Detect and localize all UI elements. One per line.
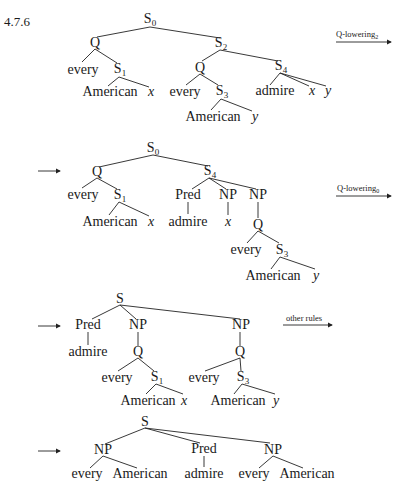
variable-x: x: [225, 215, 231, 229]
node-Pred: Pred: [175, 188, 201, 202]
word-every: every: [169, 85, 200, 99]
variable-x: x: [148, 85, 154, 99]
variable-x: x: [148, 215, 154, 229]
word-every: every: [230, 243, 261, 257]
node-Q: Q: [133, 345, 143, 359]
syntax-derivation-diagram: 4.7.6: [0, 0, 410, 494]
word-american: American: [82, 215, 137, 229]
variable-y: y: [273, 394, 279, 408]
variable-x: x: [181, 394, 187, 408]
node-S: S: [141, 415, 149, 429]
word-every: every: [67, 63, 98, 77]
word-every: every: [188, 371, 219, 385]
word-american: American: [112, 467, 167, 481]
node-S1: S1: [114, 62, 126, 78]
node-S2: S2: [215, 36, 227, 52]
word-american: American: [210, 394, 265, 408]
word-american: American: [245, 269, 300, 283]
node-S1: S1: [114, 188, 126, 204]
word-admire: admire: [256, 84, 295, 98]
node-S0: S0: [147, 141, 159, 157]
node-NP: NP: [232, 318, 250, 332]
node-Pred: Pred: [191, 442, 217, 456]
node-S3: S3: [276, 243, 288, 259]
node-S0: S0: [144, 12, 156, 28]
node-Q: Q: [92, 165, 102, 179]
node-NP: NP: [264, 443, 282, 457]
node-S3: S3: [237, 370, 249, 386]
word-every: every: [238, 467, 269, 481]
word-american: American: [185, 110, 240, 124]
word-every: every: [101, 371, 132, 385]
node-Q: Q: [235, 345, 245, 359]
variable-x: x: [309, 84, 315, 98]
node-NP: NP: [129, 318, 147, 332]
rule-label-q-lowering-2: Q-lowering2: [336, 30, 378, 42]
node-S1: S1: [151, 370, 163, 386]
variable-y: y: [313, 269, 319, 283]
word-admire: admire: [185, 467, 224, 481]
node-S3: S3: [216, 84, 228, 100]
word-every: every: [67, 188, 98, 202]
word-every: every: [71, 467, 102, 481]
rule-label-q-lowering-0: Q-lowering0: [337, 184, 379, 196]
rule-label-other-rules: other rules: [286, 314, 322, 325]
node-Q: Q: [195, 61, 205, 75]
node-Pred: Pred: [75, 318, 101, 332]
node-NP: NP: [249, 188, 267, 202]
word-admire: admire: [169, 215, 208, 229]
word-american: American: [82, 85, 137, 99]
word-american: American: [279, 467, 334, 481]
node-NP: NP: [94, 443, 112, 457]
node-Q: Q: [90, 36, 100, 50]
word-admire: admire: [69, 345, 108, 359]
node-S4: S4: [204, 164, 216, 180]
node-Q: Q: [253, 218, 263, 232]
variable-y: y: [325, 84, 331, 98]
node-NP: NP: [219, 188, 237, 202]
node-S: S: [116, 292, 124, 306]
word-american: American: [120, 394, 175, 408]
node-S4: S4: [275, 59, 287, 75]
variable-y: y: [252, 110, 258, 124]
